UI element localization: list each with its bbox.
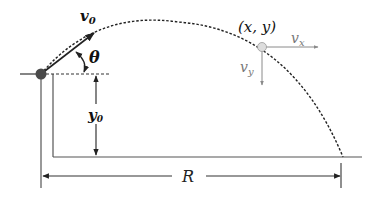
range-label: R [181, 167, 194, 186]
point-label: (x, y) [238, 18, 276, 36]
point-marker [258, 43, 267, 52]
vy-label: vy [240, 59, 254, 77]
vx-label: vx [291, 30, 305, 48]
angle-arc [76, 52, 85, 72]
y0-label: y0 [87, 106, 104, 124]
projectile-ball [36, 69, 47, 80]
projectile-diagram: v0 θ y0 (x, y) vx vy R [0, 0, 382, 199]
theta-label: θ [89, 48, 100, 67]
v0-label: v0 [80, 7, 96, 26]
initial-velocity-arrow [41, 33, 94, 74]
